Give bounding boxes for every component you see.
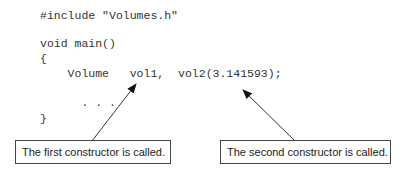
arrow-first-constructor	[92, 84, 136, 141]
callout-first-constructor: The first constructor is called.	[15, 140, 171, 164]
diagram: #include "Volumes.h" void main() { Volum…	[0, 0, 409, 176]
callout-second-constructor: The second constructor is called.	[220, 140, 391, 164]
arrow-second-constructor	[243, 90, 295, 141]
